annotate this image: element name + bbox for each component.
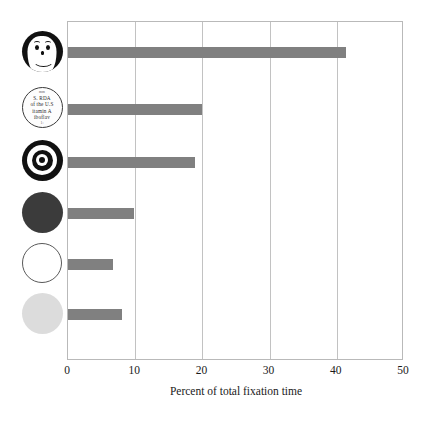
smiley-eye-left [35,45,39,50]
bar [68,309,122,320]
bullseye-ring-2 [27,145,57,175]
category-icon-white-disc [17,238,67,288]
smiley-face-icon [22,31,63,72]
bullseye-ring-4 [36,154,48,166]
smiley-mouth [33,54,54,67]
bar [68,47,346,58]
newsprint-line: 1: [40,121,43,126]
x-axis-title: Percent of total fixation time [0,385,437,397]
dark-disc-icon [22,192,63,233]
category-icon-light-gray-disc [17,288,67,338]
category-icon-bullseye [17,135,67,185]
category-icon-newsprint-disc: mm S. RDA of the U.S itamin A iboflav 1: [17,82,67,132]
newsprint-line: S. RDA [33,95,51,101]
smiley-brow-right [45,41,51,45]
figure-canvas: mm S. RDA of the U.S itamin A iboflav 1: [0,0,437,422]
newsprint-disc-icon: mm S. RDA of the U.S itamin A iboflav 1: [22,87,63,128]
newsprint-line: mm [39,90,45,95]
bar [68,259,113,270]
plot-area [67,21,403,360]
bar [68,208,134,219]
x-tick-label: 10 [128,364,140,376]
x-tick-label: 40 [330,364,342,376]
bullseye-icon [22,140,63,181]
bullseye-ring-3 [32,150,53,171]
gridline [202,22,203,359]
x-tick-label: 50 [397,364,409,376]
newsprint-line: iboflav [34,114,50,120]
category-icon-smiley-face [17,26,67,76]
newsprint-line: itamin A [32,108,52,114]
newsprint-line: of the U.S [30,101,53,107]
x-tick-label: 0 [64,364,70,376]
smiley-eye-right [46,45,50,50]
gridline [135,22,136,359]
category-icon-dark-disc [17,187,67,237]
smiley-brow-left [34,41,40,45]
x-tick-label: 30 [263,364,275,376]
bar [68,104,202,115]
gridline [337,22,338,359]
gridline [270,22,271,359]
bar [68,157,195,168]
light-gray-disc-icon [22,293,63,334]
bullseye-center [39,157,45,163]
x-tick-label: 20 [196,364,208,376]
white-disc-icon [22,243,62,283]
newsprint-text-block: mm S. RDA of the U.S itamin A iboflav 1: [23,90,62,126]
